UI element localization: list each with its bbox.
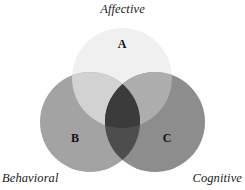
label-behavioral: Behavioral xyxy=(2,171,59,186)
label-cognitive: Cognitive xyxy=(192,171,242,186)
region-letter-a: A xyxy=(112,37,132,52)
venn-circles-canvas xyxy=(0,0,245,190)
region-letter-c: C xyxy=(157,131,177,146)
venn-diagram: Affective Behavioral Cognitive A B C xyxy=(0,0,245,190)
region-letter-b: B xyxy=(65,131,85,146)
label-affective: Affective xyxy=(0,2,245,17)
